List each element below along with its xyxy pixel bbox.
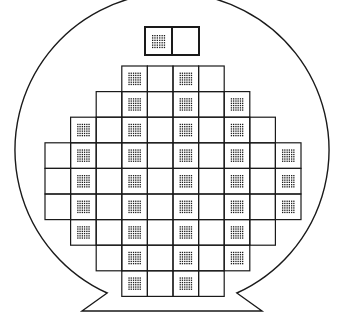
die-patterned <box>122 92 148 118</box>
die-blank <box>199 245 225 271</box>
die-blank <box>147 245 173 271</box>
die-patterned <box>224 220 250 246</box>
die-patterned <box>173 271 199 297</box>
die-blank <box>199 66 225 92</box>
die-patterned <box>122 168 148 194</box>
die-patterned <box>275 143 301 169</box>
die-blank <box>250 168 276 194</box>
die-blank <box>147 92 173 118</box>
die-blank <box>199 117 225 143</box>
die-patterned <box>275 168 301 194</box>
die-blank <box>250 143 276 169</box>
die-patterned <box>224 143 250 169</box>
die-blank <box>199 143 225 169</box>
die-patterned <box>224 168 250 194</box>
die-blank <box>250 194 276 220</box>
die-patterned <box>122 271 148 297</box>
wafer-diagram <box>0 0 345 327</box>
die-patterned <box>224 194 250 220</box>
die-patterned <box>275 194 301 220</box>
die-patterned <box>173 220 199 246</box>
die-patterned <box>173 168 199 194</box>
die-blank <box>199 92 225 118</box>
test-die-blank <box>172 27 199 55</box>
die-patterned <box>224 245 250 271</box>
die-blank <box>96 245 122 271</box>
test-die-patterned <box>145 27 172 55</box>
die-patterned <box>71 194 97 220</box>
die-blank <box>147 220 173 246</box>
die-patterned <box>173 245 199 271</box>
die-blank <box>96 117 122 143</box>
die-blank <box>250 117 276 143</box>
die-blank <box>45 194 71 220</box>
die-blank <box>96 92 122 118</box>
die-patterned <box>173 92 199 118</box>
die-blank <box>250 220 276 246</box>
die-blank <box>96 168 122 194</box>
die-patterned <box>122 245 148 271</box>
die-blank <box>96 143 122 169</box>
die-blank <box>199 194 225 220</box>
die-patterned <box>71 117 97 143</box>
die-patterned <box>224 92 250 118</box>
die-blank <box>147 168 173 194</box>
die-blank <box>147 143 173 169</box>
die-blank <box>45 168 71 194</box>
die-patterned <box>122 117 148 143</box>
die-patterned <box>122 143 148 169</box>
die-blank <box>96 220 122 246</box>
die-blank <box>96 194 122 220</box>
die-patterned <box>71 220 97 246</box>
die-grid <box>45 66 301 296</box>
die-patterned <box>122 220 148 246</box>
die-patterned <box>224 117 250 143</box>
die-blank <box>199 220 225 246</box>
die-blank <box>147 66 173 92</box>
die-blank <box>45 143 71 169</box>
die-patterned <box>71 168 97 194</box>
die-patterned <box>71 143 97 169</box>
die-patterned <box>122 194 148 220</box>
die-blank <box>147 271 173 297</box>
test-key-die-pair <box>145 27 199 55</box>
die-blank <box>199 168 225 194</box>
die-patterned <box>122 66 148 92</box>
die-patterned <box>173 194 199 220</box>
die-blank <box>199 271 225 297</box>
die-patterned <box>173 117 199 143</box>
die-blank <box>147 117 173 143</box>
die-patterned <box>173 143 199 169</box>
die-patterned <box>173 66 199 92</box>
die-blank <box>147 194 173 220</box>
